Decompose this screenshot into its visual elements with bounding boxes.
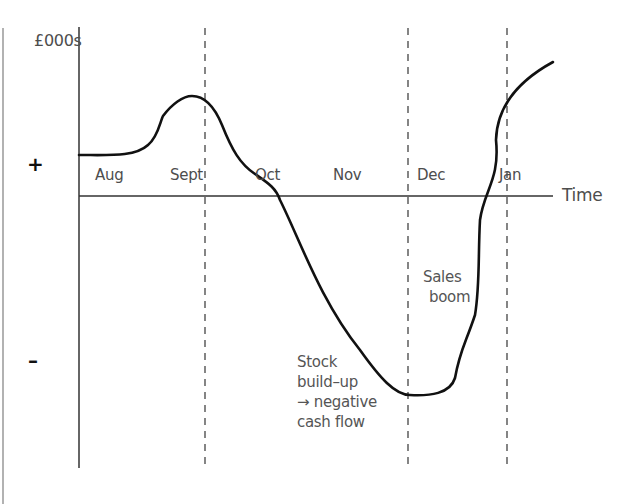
sales-boom-annotation: Sales boom — [423, 267, 470, 307]
cash-flow-curve — [79, 62, 553, 395]
month-label-oct: Oct — [255, 166, 280, 184]
month-label-sept: Sept — [170, 166, 203, 184]
month-label-jan: Jan — [499, 166, 521, 184]
negative-sign: – — [28, 348, 38, 372]
positive-sign: + — [27, 152, 44, 176]
time-axis-label: Time — [562, 186, 602, 204]
month-label-dec: Dec — [417, 166, 445, 184]
y-axis-unit-label: £000s — [34, 32, 82, 50]
month-label-aug: Aug — [95, 166, 123, 184]
month-label-nov: Nov — [333, 166, 361, 184]
stock-buildup-annotation: Stock build–up → negative cash flow — [297, 352, 377, 432]
